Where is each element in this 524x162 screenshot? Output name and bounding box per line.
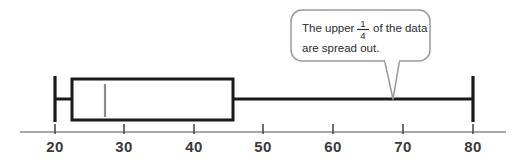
callout-line1-after: of the data xyxy=(373,22,428,34)
callout-pointer-icon xyxy=(384,58,400,99)
axis-label-40: 40 xyxy=(185,138,202,155)
boxplot-svg: 20 30 40 50 60 70 80 The upper 1 4 of th xyxy=(0,0,524,162)
boxplot-figure: 20 30 40 50 60 70 80 The upper 1 4 of th xyxy=(0,0,524,162)
callout-line2: are spread out. xyxy=(302,42,379,54)
axis-label-30: 30 xyxy=(115,138,132,155)
axis-label-80: 80 xyxy=(464,138,481,155)
axis-group: 20 30 40 50 60 70 80 xyxy=(20,124,506,155)
fraction-numerator: 1 xyxy=(360,18,365,29)
upper-quarter-callout: The upper 1 4 of the data are spread out… xyxy=(291,10,430,99)
axis-label-20: 20 xyxy=(46,138,63,155)
interquartile-box xyxy=(72,79,233,120)
axis-label-70: 70 xyxy=(394,138,411,155)
axis-label-50: 50 xyxy=(254,138,271,155)
callout-line1-before: The upper xyxy=(302,22,355,34)
axis-label-60: 60 xyxy=(324,138,341,155)
fraction-denominator: 4 xyxy=(360,30,365,41)
